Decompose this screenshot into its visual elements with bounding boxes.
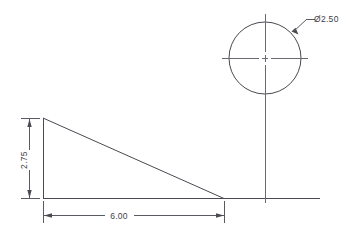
vdim-arrowhead-top: [27, 119, 31, 127]
diameter-leader-group: Ø2.50: [292, 14, 339, 35]
vdim-arrowhead-bottom: [27, 190, 31, 198]
diameter-dimension-text: Ø2.50: [314, 14, 339, 24]
vertical-dimension-text: 2.75: [19, 151, 29, 169]
drawing-viewport: Ø2.50 2.75 6.00: [0, 0, 350, 243]
circle-hole-view: [222, 14, 308, 203]
profile-hypotenuse-edge: [43, 118, 224, 199]
leader-slant-segment: [294, 19, 307, 31]
vertical-dimension-group: 2.75: [19, 119, 40, 199]
cad-drawing-canvas: Ø2.50 2.75 6.00: [0, 0, 350, 243]
hdim-arrowhead-right: [216, 213, 224, 217]
leader-arrowhead: [292, 28, 299, 35]
horizontal-dimension-group: 6.00: [44, 201, 225, 223]
horizontal-dimension-text: 6.00: [110, 211, 128, 221]
hdim-arrowhead-left: [44, 213, 52, 217]
triangle-profile-view: [43, 118, 224, 199]
